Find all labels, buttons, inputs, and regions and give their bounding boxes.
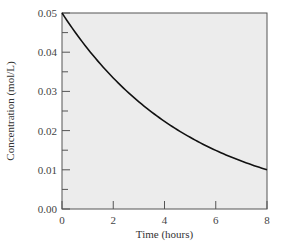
- y-tick-label: 0.01: [38, 164, 57, 176]
- x-axis-label: Time (hours): [136, 228, 194, 241]
- x-tick-label: 0: [59, 214, 65, 226]
- y-tick-label: 0.00: [38, 203, 58, 215]
- y-tick-label: 0.04: [38, 46, 58, 58]
- plot-area: [62, 13, 267, 209]
- x-tick-label: 6: [213, 214, 219, 226]
- y-tick-label: 0.05: [38, 7, 58, 19]
- y-axis-label: Concentration (mol/L): [4, 61, 17, 161]
- concentration-chart: 0.000.010.020.030.040.05 02468 Time (hou…: [0, 0, 281, 252]
- x-tick-label: 4: [162, 214, 168, 226]
- x-tick-label: 8: [264, 214, 270, 226]
- y-tick-label: 0.03: [38, 85, 58, 97]
- x-tick-label: 2: [111, 214, 117, 226]
- y-tick-label: 0.02: [38, 125, 57, 137]
